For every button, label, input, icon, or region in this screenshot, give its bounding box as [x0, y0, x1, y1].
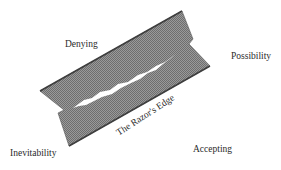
label-possibility: Possibility: [231, 52, 271, 62]
label-denying: Denying: [65, 40, 98, 50]
razors-edge-diagram: Denying Possibility Inevitability Accept…: [0, 0, 281, 170]
label-accepting: Accepting: [193, 145, 232, 155]
label-inevitability: Inevitability: [10, 149, 56, 159]
razor-blade-graphic: [0, 0, 281, 170]
